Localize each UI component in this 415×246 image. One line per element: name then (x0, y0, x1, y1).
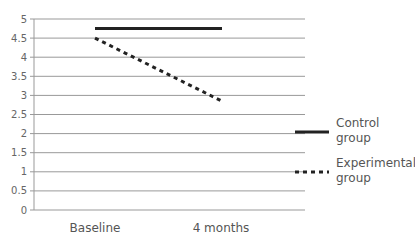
series-lines (95, 29, 222, 102)
experimental-group-line (95, 38, 222, 101)
y-tick-label: 4.5 (11, 33, 27, 44)
y-tick-label: 3.5 (11, 71, 27, 82)
y-axis-ticks: 00.511.522.533.544.55 (11, 14, 27, 216)
legend-experimental-label-2: group (336, 171, 371, 185)
legend-experimental-label: Experimental (336, 156, 415, 170)
y-tick-label: 0 (21, 205, 27, 216)
legend: Control group Experimental group (295, 116, 415, 185)
y-tick-label: 2 (21, 128, 27, 139)
legend-control-label: Control (336, 116, 379, 130)
y-tick-label: 4 (21, 52, 27, 63)
y-tick-label: 0.5 (11, 185, 27, 196)
y-tick-label: 1 (21, 166, 27, 177)
line-chart: 00.511.522.533.544.55 Baseline 4 months … (0, 0, 415, 246)
y-tick-label: 1.5 (11, 147, 27, 158)
y-tick-label: 5 (21, 14, 27, 25)
x-label-baseline: Baseline (70, 221, 121, 235)
x-label-4-months: 4 months (193, 221, 250, 235)
y-tick-label: 2.5 (11, 109, 27, 120)
legend-control-label-2: group (336, 131, 371, 145)
gridlines (30, 19, 305, 210)
y-tick-label: 3 (21, 90, 27, 101)
